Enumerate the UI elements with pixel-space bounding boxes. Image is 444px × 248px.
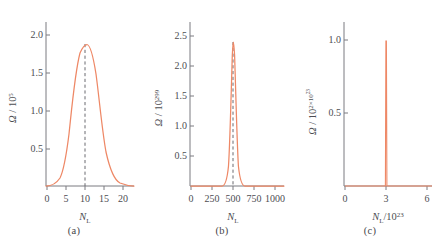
y-ticklabel-b-2: 1.5: [175, 90, 188, 101]
y-axis-label-c: Ω / 102×1023: [305, 89, 318, 135]
y-ticklabel-c-0: 0.5: [329, 107, 342, 118]
panel-b-plot: 0.5 1.0 1.5 2.0 2.5 0 250 500 750 1000 Ω…: [148, 0, 296, 248]
x-ticklabel-c-0: 0: [343, 193, 348, 204]
omega-curve-b: [191, 42, 284, 186]
y-ticklabel-b-3: 2.0: [175, 60, 188, 71]
x-ticklabel-a-2: 10: [80, 193, 90, 204]
panel-caption-a: (a): [0, 225, 148, 236]
x-ticklabel-b-3: 750: [247, 193, 262, 204]
x-ticklabel-c-2: 6: [425, 193, 430, 204]
panel-c-plot: 0.5 1.0 0 3 6 Ω / 102×1023 NL/1023: [296, 0, 444, 248]
panel-c: 0.5 1.0 0 3 6 Ω / 102×1023 NL/1023 (c): [296, 0, 444, 248]
x-ticklabel-a-1: 5: [64, 193, 69, 204]
omega-curve-a: [46, 45, 134, 187]
x-ticklabel-b-1: 250: [205, 193, 220, 204]
figure-container: 0.5 1.0 1.5 2.0 0 5 10 15 20 Ω / 105 NL …: [0, 0, 444, 248]
y-axis-label-b: Ω / 10299: [153, 89, 165, 126]
x-ticklabel-a-3: 15: [99, 193, 109, 204]
y-ticklabel-b-4: 2.5: [175, 30, 188, 41]
panel-a-plot: 0.5 1.0 1.5 2.0 0 5 10 15 20 Ω / 105 NL: [0, 0, 148, 248]
x-ticklabel-a-4: 20: [118, 193, 128, 204]
y-ticklabel-a-1: 1.0: [31, 105, 44, 116]
x-axis-label-a: NL: [78, 211, 90, 225]
x-axis-label-b: NL: [226, 211, 238, 225]
y-ticklabel-b-0: 0.5: [175, 150, 188, 161]
y-ticklabel-a-2: 1.5: [31, 67, 44, 78]
y-ticklabel-b-1: 1.0: [175, 120, 188, 131]
x-ticklabel-b-0: 0: [189, 193, 194, 204]
x-ticklabel-b-4: 1000: [265, 193, 285, 204]
panel-b: 0.5 1.0 1.5 2.0 2.5 0 250 500 750 1000 Ω…: [148, 0, 296, 248]
x-ticklabel-a-0: 0: [45, 193, 50, 204]
y-ticklabel-a-0: 0.5: [31, 143, 44, 154]
x-axis-label-c: NL/1023: [371, 211, 404, 225]
y-axis-label-a: Ω / 105: [7, 93, 19, 123]
y-ticklabel-c-1: 1.0: [329, 34, 342, 45]
omega-curve-c: [345, 41, 432, 186]
x-ticklabel-c-1: 3: [384, 193, 389, 204]
panel-a: 0.5 1.0 1.5 2.0 0 5 10 15 20 Ω / 105 NL …: [0, 0, 148, 248]
panel-caption-b: (b): [148, 225, 296, 236]
panel-caption-c: (c): [296, 225, 444, 236]
y-ticklabel-a-3: 2.0: [31, 29, 44, 40]
x-ticklabel-b-2: 500: [226, 193, 241, 204]
